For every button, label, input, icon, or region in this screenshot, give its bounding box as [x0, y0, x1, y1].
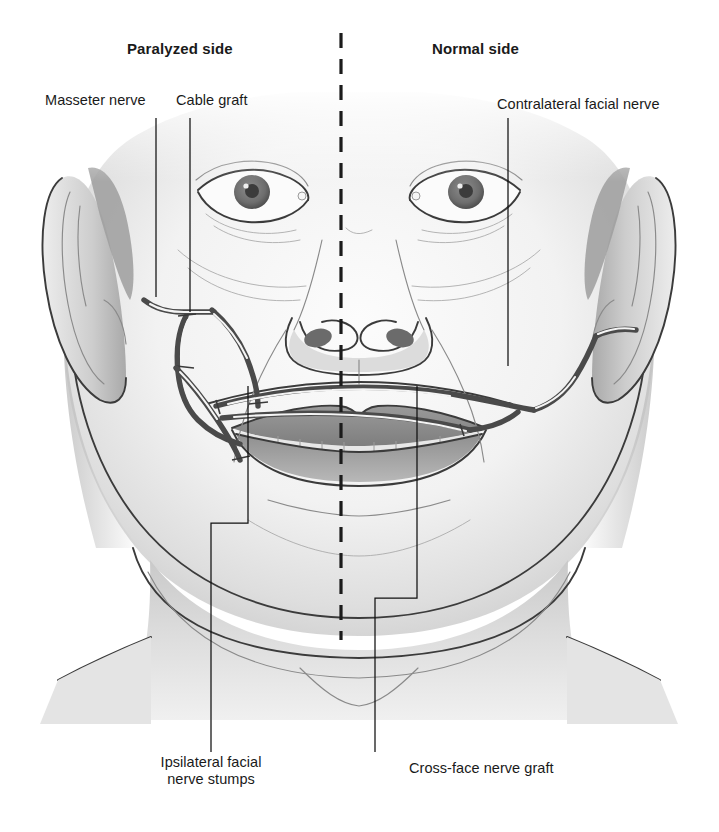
heading-paralyzed-side: Paralyzed side	[127, 40, 233, 58]
label-contralateral-facial-nerve: Contralateral facial nerve	[497, 96, 660, 113]
figure-canvas: Paralyzed side Normal side Masseter nerv…	[0, 0, 719, 832]
label-cable-graft: Cable graft	[176, 92, 247, 109]
label-ipsilateral-facial-nerve-stumps: Ipsilateral facial nerve stumps	[91, 754, 331, 788]
face-illustration	[0, 0, 719, 832]
label-cross-face-nerve-graft: Cross-face nerve graft	[409, 760, 554, 777]
label-ipsilateral-line-2: nerve stumps	[91, 771, 331, 788]
heading-normal-side: Normal side	[432, 40, 519, 58]
label-ipsilateral-line-1: Ipsilateral facial	[91, 754, 331, 771]
label-masseter-nerve: Masseter nerve	[45, 92, 146, 109]
